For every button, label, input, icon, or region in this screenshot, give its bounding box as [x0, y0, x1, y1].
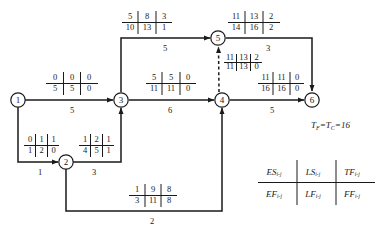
cell-tf: 0 — [87, 72, 91, 82]
activity-table-1-3: 0 0 0 5 5 0 5 — [46, 72, 98, 115]
svg-text:TF=TC=16: TF=TC=16 — [311, 120, 350, 131]
activity-table-5-6: 11 13 2 14 16 2 3 — [228, 11, 280, 53]
legend-tf: TFi-j — [344, 167, 360, 177]
cell-ff: 1 — [106, 145, 110, 155]
cell-ls: 1 — [39, 134, 43, 144]
legend-ef: EFi-j — [265, 189, 282, 199]
activity-table-4-6: 11 11 0 16 16 0 5 — [258, 72, 304, 115]
cell-ls: 2 — [94, 134, 98, 144]
cell-ls: 11 — [277, 72, 285, 82]
cell-ef: 4 — [83, 145, 88, 155]
duration-label: 5 — [163, 43, 167, 53]
cell-tf: 3 — [162, 11, 166, 21]
node-label: 1 — [16, 95, 21, 105]
duration-label: 3 — [92, 167, 96, 177]
cell-lf: 16 — [250, 22, 259, 32]
node-4: 4 — [215, 93, 229, 107]
cell-ef: 1 — [28, 145, 32, 155]
cell-es: 5 — [128, 11, 132, 21]
activity-table-3-5: 5 8 3 10 13 1 5 — [122, 11, 172, 53]
cell-ls: 8 — [145, 11, 149, 21]
edge-4-5-dummy — [219, 47, 220, 92]
node-1: 1 — [11, 93, 25, 107]
cell-ef: 16 — [261, 83, 270, 93]
activity-table-3-4: 5 5 0 11 11 0 6 — [146, 72, 196, 115]
cpm-network-diagram: 0 0 0 5 5 0 5 0 1 1 1 2 0 1 1 2 — [0, 0, 385, 228]
node-label: 2 — [64, 157, 69, 167]
cell-tf: 2 — [269, 11, 273, 21]
cell-ff: 1 — [162, 22, 166, 32]
duration-label: 5 — [270, 105, 274, 115]
cell-ef: 10 — [126, 22, 135, 32]
cell-ef: 5 — [53, 83, 57, 93]
cell-ff: 8 — [167, 195, 171, 205]
node-label: 6 — [310, 95, 315, 105]
legend-es: ESi-j — [266, 167, 282, 177]
cell-ff: 0 — [254, 61, 258, 71]
legend-lf: LFi-j — [304, 189, 321, 199]
cell-tf: 1 — [51, 134, 55, 144]
node-label: 3 — [119, 95, 124, 105]
cell-lf: 13 — [143, 22, 152, 32]
duration-label: 2 — [150, 216, 154, 226]
legend-ls: LSi-j — [305, 167, 321, 177]
node-3: 3 — [114, 93, 128, 107]
cell-ls: 5 — [169, 72, 173, 82]
cell-es: 11 — [261, 72, 269, 82]
legend-table: ESi-j LSi-j TFi-j EFi-j LFi-j FFi-j — [258, 160, 375, 205]
cell-es: 0 — [28, 134, 32, 144]
node-label: 5 — [216, 33, 221, 43]
cell-lf: 5 — [70, 83, 74, 93]
cell-ff: 0 — [51, 145, 55, 155]
cell-es: 0 — [53, 72, 57, 82]
cell-ef: 14 — [232, 22, 241, 32]
cell-es: 1 — [135, 184, 139, 194]
node-2: 2 — [59, 155, 73, 169]
cell-es: 11 — [232, 11, 240, 21]
cell-tf: 8 — [167, 184, 171, 194]
duration-label: 6 — [168, 105, 172, 115]
node-5: 5 — [211, 31, 225, 45]
cell-ff: 0 — [186, 83, 190, 93]
cell-lf: 11 — [149, 195, 157, 205]
project-duration-annotation: TF=TC=16 — [311, 120, 350, 131]
cell-ef: 11 — [150, 83, 158, 93]
activity-table-4-5-dummy: 11 13 2 11 13 0 — [224, 52, 262, 71]
cell-lf: 2 — [39, 145, 43, 155]
cell-ef: 3 — [135, 195, 139, 205]
cell-es: 1 — [83, 134, 87, 144]
cell-ef: 11 — [226, 61, 234, 71]
legend-ff: FFi-j — [343, 189, 360, 199]
cell-ls: 13 — [250, 11, 259, 21]
cell-ff: 2 — [269, 22, 273, 32]
cell-tf: 0 — [186, 72, 190, 82]
cell-lf: 5 — [94, 145, 98, 155]
duration-label: 3 — [266, 43, 270, 53]
node-label: 4 — [220, 95, 225, 105]
cell-lf: 13 — [239, 61, 248, 71]
activity-table-1-2: 0 1 1 1 2 0 1 — [24, 134, 59, 177]
cell-es: 5 — [152, 72, 156, 82]
duration-label: 1 — [38, 167, 42, 177]
duration-label: 5 — [70, 105, 74, 115]
cell-tf: 0 — [295, 72, 299, 82]
tf-value: 16 — [341, 120, 351, 130]
cell-lf: 16 — [277, 83, 286, 93]
node-6: 6 — [305, 93, 319, 107]
activity-table-2-4: 1 9 8 3 11 8 2 — [129, 184, 177, 226]
cell-ls: 9 — [151, 184, 155, 194]
cell-tf: 1 — [106, 134, 110, 144]
cell-ls: 0 — [70, 72, 74, 82]
cell-lf: 11 — [167, 83, 175, 93]
cell-ff: 0 — [87, 83, 91, 93]
cell-ff: 0 — [295, 83, 299, 93]
activity-table-2-3: 1 2 1 4 5 1 3 — [79, 134, 114, 177]
